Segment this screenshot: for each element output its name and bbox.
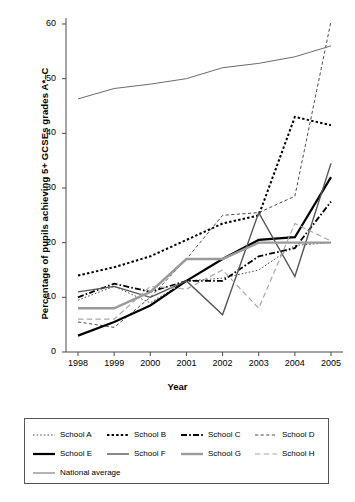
y-tick-label: 40 bbox=[30, 127, 56, 137]
chart-legend: School ASchool BSchool CSchool DSchool E… bbox=[24, 418, 329, 484]
legend-item-school-f[interactable]: School F bbox=[107, 449, 181, 459]
x-tick-label: 1999 bbox=[94, 358, 134, 368]
legend-line-swatch-icon bbox=[33, 449, 55, 459]
legend-line-swatch-icon bbox=[181, 430, 203, 440]
legend-line-swatch-icon bbox=[107, 449, 129, 459]
legend-item-label: School G bbox=[208, 449, 241, 458]
legend-row: School ASchool BSchool CSchool D bbox=[33, 425, 328, 444]
legend-item-label: School H bbox=[282, 449, 314, 458]
legend-item-label: School F bbox=[134, 449, 166, 458]
legend-item-school-a[interactable]: School A bbox=[33, 430, 107, 440]
legend-line-swatch-icon bbox=[255, 449, 277, 459]
series-line-school-c bbox=[78, 202, 331, 298]
axis-lines bbox=[62, 18, 343, 356]
legend-item-school-c[interactable]: School C bbox=[181, 430, 255, 440]
legend-item-label: School A bbox=[60, 430, 92, 439]
legend-line-swatch-icon bbox=[33, 468, 55, 478]
legend-item-label: National average bbox=[60, 468, 120, 477]
data-series-group bbox=[78, 21, 331, 335]
legend-item-school-h[interactable]: School H bbox=[255, 449, 329, 459]
legend-row: School ESchool FSchool GSchool H bbox=[33, 444, 328, 463]
y-tick-label: 60 bbox=[30, 18, 56, 28]
y-tick-label: 20 bbox=[30, 237, 56, 247]
y-tick-label: 50 bbox=[30, 73, 56, 83]
x-tick-label: 2002 bbox=[203, 358, 243, 368]
legend-item-label: School B bbox=[134, 430, 166, 439]
series-line-school-d bbox=[78, 21, 331, 327]
x-axis-label: Year bbox=[0, 381, 355, 392]
legend-item-label: School D bbox=[282, 430, 314, 439]
series-line-national-average bbox=[78, 46, 331, 99]
legend-item-national-average[interactable]: National average bbox=[33, 468, 183, 478]
legend-item-school-e[interactable]: School E bbox=[33, 449, 107, 459]
x-tick-label: 2004 bbox=[275, 358, 315, 368]
series-line-school-f bbox=[78, 163, 331, 314]
legend-item-school-b[interactable]: School B bbox=[107, 430, 181, 440]
y-tick-label: 10 bbox=[30, 291, 56, 301]
x-tick-label: 2003 bbox=[239, 358, 279, 368]
x-tick-label: 2001 bbox=[166, 358, 206, 368]
y-tick-label: 30 bbox=[30, 182, 56, 192]
legend-line-swatch-icon bbox=[255, 430, 277, 440]
x-tick-label: 2005 bbox=[311, 358, 351, 368]
legend-item-school-d[interactable]: School D bbox=[255, 430, 329, 440]
legend-line-swatch-icon bbox=[181, 449, 203, 459]
x-tick-label: 2000 bbox=[130, 358, 170, 368]
legend-item-label: School E bbox=[60, 449, 92, 458]
line-chart-plot bbox=[0, 0, 355, 400]
x-tick-label: 1998 bbox=[58, 358, 98, 368]
y-tick-label: 0 bbox=[30, 346, 56, 356]
series-line-school-e bbox=[78, 177, 331, 336]
chart-area: Percentage of pupils achieving 5+ GCSEs … bbox=[0, 0, 355, 400]
series-line-school-b bbox=[78, 117, 331, 276]
legend-line-swatch-icon bbox=[107, 430, 129, 440]
legend-item-label: School C bbox=[208, 430, 240, 439]
legend-line-swatch-icon bbox=[33, 430, 55, 440]
legend-item-school-g[interactable]: School G bbox=[181, 449, 255, 459]
chart-page: Percentage of pupils achieving 5+ GCSEs … bbox=[0, 0, 355, 502]
legend-row: National average bbox=[33, 463, 328, 482]
